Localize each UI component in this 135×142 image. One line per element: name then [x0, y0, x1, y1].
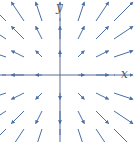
vector-arrow: [11, 129, 24, 142]
vector-arrow: [114, 129, 133, 142]
vector-arrow: [96, 26, 109, 39]
vector-arrow: [96, 129, 109, 142]
vector-arrow: [96, 2, 109, 21]
vector-arrow: [96, 111, 109, 124]
y-axis-label: y: [56, 0, 63, 14]
vector-arrow: [11, 26, 24, 39]
vector-arrow: [0, 93, 6, 99]
vector-arrows: [0, 2, 133, 142]
vector-arrow: [0, 26, 6, 39]
vector-arrow: [11, 111, 24, 124]
vector-arrow: [36, 129, 42, 142]
vector-arrow: [114, 93, 133, 99]
vector-arrow: [78, 26, 84, 39]
vector-arrow: [36, 2, 42, 21]
vector-arrow: [78, 111, 84, 124]
vector-arrow: [36, 111, 42, 124]
vector-arrow: [11, 2, 24, 21]
vector-arrow: [114, 51, 133, 57]
vector-arrow: [96, 51, 109, 57]
vector-arrow: [114, 2, 133, 21]
vector-arrow: [36, 26, 42, 39]
vector-arrow: [96, 93, 109, 99]
vector-arrow: [0, 129, 6, 142]
vector-arrow: [114, 111, 133, 124]
vector-arrow: [36, 93, 42, 99]
vector-arrow: [78, 93, 84, 99]
vector-arrow: [11, 93, 24, 99]
vector-arrow: [114, 26, 133, 39]
vector-arrow: [0, 2, 6, 21]
vector-field-canvas: [0, 0, 135, 142]
vector-arrow: [78, 51, 84, 57]
vector-arrow: [11, 51, 24, 57]
vector-arrow: [0, 111, 6, 124]
vector-arrow: [0, 51, 6, 57]
vector-arrow: [78, 2, 84, 21]
x-axis-label: x: [121, 67, 128, 81]
vector-arrow: [78, 129, 84, 142]
vector-arrow: [36, 51, 42, 57]
